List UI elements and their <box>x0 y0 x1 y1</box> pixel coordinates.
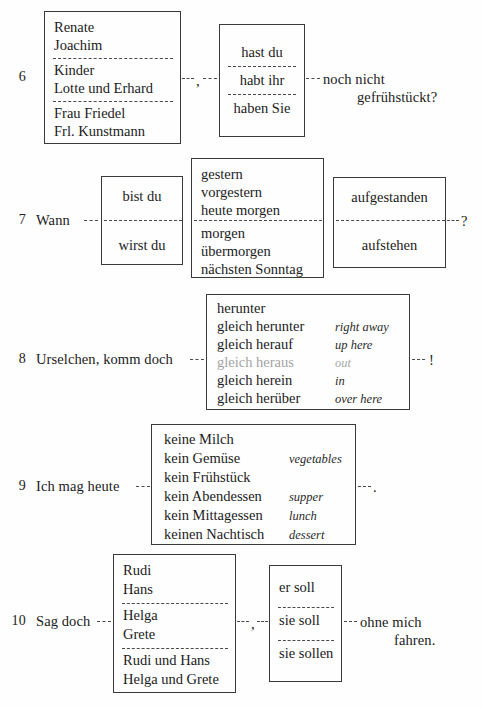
exercise-7-tail: ? <box>461 212 468 230</box>
connector-dash <box>447 220 459 221</box>
option-item[interactable]: habt ihr <box>220 71 304 90</box>
group-separator <box>278 640 334 641</box>
option-item[interactable]: Joachim <box>54 36 102 55</box>
exercise-7-stem: Wann <box>36 212 70 229</box>
option-item[interactable]: aufgestanden <box>334 188 445 207</box>
option-de: keine Milch <box>164 430 289 449</box>
option-item[interactable]: er soll <box>279 578 315 597</box>
option-item[interactable]: kein Mittagessenlunch <box>164 506 317 526</box>
option-item[interactable]: gestern <box>201 165 243 184</box>
exercise-page: 6 Renate Joachim Kinder Lotte und Erhard… <box>0 0 483 707</box>
group-separator <box>53 101 173 102</box>
group-separator <box>104 220 182 221</box>
option-item[interactable]: hast du <box>220 43 304 62</box>
option-item[interactable]: herunter <box>217 299 335 318</box>
option-item[interactable]: morgen <box>201 224 245 243</box>
exercise-8-box-1: herunter gleich herunterright away gleic… <box>206 294 410 410</box>
option-de: gleich heraus <box>217 353 335 372</box>
option-item[interactable]: Rudi und Hans <box>123 651 210 670</box>
tail-line-2: fahren. <box>360 631 435 649</box>
option-de: kein Abendessen <box>164 487 289 506</box>
option-gloss: dessert <box>289 526 324 545</box>
option-gloss: over here <box>335 390 382 409</box>
exercise-8-tail: ! <box>429 351 434 369</box>
exercise-6-box-2: hast du habt ihr haben Sie <box>219 24 305 137</box>
option-item[interactable]: übermorgen <box>201 242 271 261</box>
connector-dash <box>358 486 371 487</box>
connector-comma: , <box>251 617 255 632</box>
group-separator <box>53 58 173 59</box>
option-de: keinen Nachtisch <box>164 525 289 544</box>
option-item[interactable]: vorgestern <box>201 183 262 202</box>
group-separator <box>194 220 322 221</box>
option-item[interactable]: gleich herunterright away <box>217 317 389 337</box>
exercise-number-9: 9 <box>0 478 26 494</box>
exercise-6-tail: noch nicht gefrühstückt? <box>323 70 437 106</box>
exercise-6-box-1: Renate Joachim Kinder Lotte und Erhard F… <box>44 11 181 144</box>
connector-dash <box>203 78 217 79</box>
option-item[interactable]: gleich hereinin <box>217 371 345 391</box>
option-item[interactable]: keine Milch <box>164 430 289 449</box>
option-item[interactable]: keinen Nachtischdessert <box>164 525 324 545</box>
option-item[interactable]: bist du <box>102 187 182 206</box>
option-de: kein Mittagessen <box>164 506 289 525</box>
group-separator <box>336 220 445 221</box>
exercise-9-box-1: keine Milch kein Gemüsevegetables kein F… <box>151 424 356 545</box>
option-item[interactable]: kein Frühstück <box>164 468 289 487</box>
connector-dash <box>306 78 320 79</box>
connector-dash <box>237 621 249 622</box>
option-gloss: vegetables <box>289 450 342 469</box>
option-item[interactable]: aufstehen <box>334 236 445 255</box>
option-de: kein Frühstück <box>164 468 289 487</box>
exercise-7-box-3: aufgestanden aufstehen <box>333 177 446 268</box>
connector-dash <box>190 359 204 360</box>
option-item[interactable]: Helga und Grete <box>123 670 219 689</box>
exercise-8-stem: Urselchen, komm doch <box>36 351 173 368</box>
group-separator <box>228 94 296 95</box>
option-de: gleich herauf <box>217 335 335 354</box>
option-item[interactable]: Rudi <box>123 561 151 580</box>
tail-line-2: gefrühstückt? <box>323 88 437 106</box>
option-item[interactable]: Grete <box>123 625 155 644</box>
option-item[interactable]: Lotte und Erhard <box>54 79 153 98</box>
option-item[interactable]: wirst du <box>102 236 182 255</box>
option-item[interactable]: gleich herüberover here <box>217 389 382 409</box>
option-item[interactable]: Frau Friedel <box>54 104 125 123</box>
exercise-7-box-1: bist du wirst du <box>101 176 183 265</box>
exercise-number-8: 8 <box>0 351 26 367</box>
option-item[interactable]: kein Gemüsevegetables <box>164 449 342 469</box>
option-item[interactable]: gleich herausout <box>217 353 351 373</box>
group-separator <box>122 603 228 604</box>
option-item[interactable]: Kinder <box>54 61 94 80</box>
option-item[interactable]: Hans <box>123 580 153 599</box>
group-separator <box>278 607 334 608</box>
option-gloss: supper <box>289 488 323 507</box>
option-item[interactable]: haben Sie <box>220 99 304 118</box>
exercise-10-box-2: er soll sie soll sie sollen <box>269 565 342 682</box>
exercise-9-tail: . <box>373 478 377 496</box>
option-item[interactable]: heute morgen <box>201 201 280 220</box>
option-item[interactable]: Renate <box>54 18 94 37</box>
option-item[interactable]: gleich heraufup here <box>217 335 372 355</box>
option-item[interactable]: sie soll <box>279 611 320 630</box>
connector-dash <box>412 359 425 360</box>
option-item[interactable]: nächsten Sonntag <box>201 260 303 279</box>
option-gloss: lunch <box>289 507 317 526</box>
option-de: herunter <box>217 299 335 318</box>
option-item[interactable]: Frl. Kunstmann <box>54 122 145 141</box>
exercise-number-10: 10 <box>0 613 26 629</box>
option-de: gleich herüber <box>217 389 335 408</box>
exercise-number-6: 6 <box>0 69 26 85</box>
connector-dash <box>97 621 111 622</box>
tail-line-1: noch nicht <box>323 71 385 87</box>
group-separator <box>122 648 228 649</box>
option-item[interactable]: sie sollen <box>279 644 333 663</box>
option-de: gleich herein <box>217 371 335 390</box>
connector-dash <box>344 621 357 622</box>
option-item[interactable]: kein Abendessensupper <box>164 487 323 507</box>
exercise-10-box-1: Rudi Hans Helga Grete Rudi und Hans Helg… <box>113 554 236 693</box>
option-item[interactable]: Helga <box>123 606 158 625</box>
connector-comma: , <box>196 74 200 89</box>
connector-dash <box>84 220 98 221</box>
exercise-10-stem: Sag doch <box>36 613 90 630</box>
